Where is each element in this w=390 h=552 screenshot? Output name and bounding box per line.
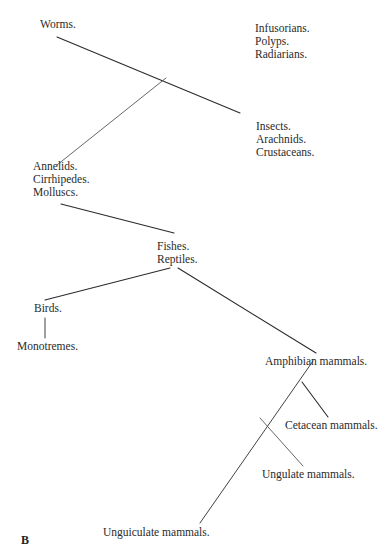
panel-label: B	[21, 533, 29, 548]
node-label: Insects.	[256, 120, 314, 133]
node-birds: Birds.	[34, 302, 62, 315]
node-label: Fishes.	[157, 240, 198, 253]
node-label: Annelids.	[33, 160, 90, 173]
node-insects: Insects. Arachnids. Crustaceans.	[256, 120, 314, 159]
node-label: Molluscs.	[33, 186, 90, 199]
node-label: Ungulate mammals.	[262, 468, 355, 481]
node-label: Radiarians.	[255, 48, 310, 61]
edge-fishes-birds	[45, 268, 170, 300]
edge-annelids-fishes	[61, 204, 174, 233]
node-label: Cirrhipedes.	[33, 173, 90, 186]
node-ungulate: Ungulate mammals.	[262, 468, 355, 481]
node-monotremes: Monotremes.	[17, 340, 78, 353]
edge-worms-insects	[57, 37, 240, 113]
edge-amphibian-cetacean	[302, 382, 328, 417]
node-label: Crustaceans.	[256, 146, 314, 159]
edge-fishes-amphibian	[178, 268, 316, 353]
edge-amphibian-unguiculate	[200, 361, 313, 523]
node-fishes: Fishes. Reptiles.	[157, 240, 198, 266]
node-cetacean: Cetacean mammals.	[285, 419, 378, 432]
node-label: Arachnids.	[256, 133, 314, 146]
node-label: Reptiles.	[157, 253, 198, 266]
node-label: Cetacean mammals.	[285, 419, 378, 432]
node-amphibian: Amphibian mammals.	[265, 355, 367, 368]
edge-worms-annelids	[57, 78, 166, 165]
node-label: Infusorians.	[255, 22, 310, 35]
node-label: Birds.	[34, 302, 62, 315]
node-worms: Worms.	[40, 18, 76, 31]
node-infusorians: Infusorians. Polyps. Radiarians.	[255, 22, 310, 61]
node-label: Worms.	[40, 18, 76, 31]
node-label: Unguiculate mammals.	[103, 526, 210, 539]
node-label: Amphibian mammals.	[265, 355, 367, 368]
node-unguiculate: Unguiculate mammals.	[103, 526, 210, 539]
node-label: Monotremes.	[17, 340, 78, 353]
node-annelids: Annelids. Cirrhipedes. Molluscs.	[33, 160, 90, 199]
node-label: Polyps.	[255, 35, 310, 48]
